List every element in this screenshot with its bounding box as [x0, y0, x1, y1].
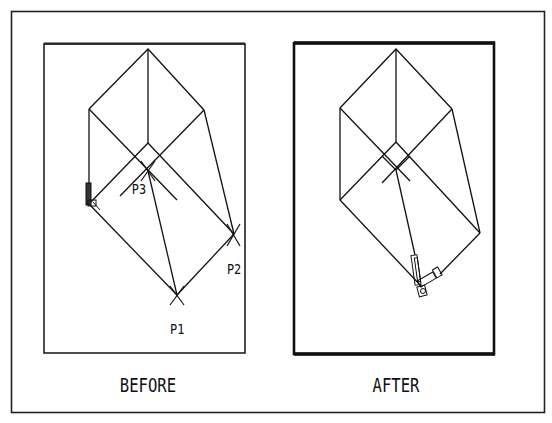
after-caption: AFTER — [314, 374, 478, 396]
p3-label: P3 — [132, 181, 146, 197]
p2-label: P2 — [227, 261, 241, 277]
before-after-diagram: P3 P2 P1 — [0, 0, 552, 423]
before-viewport-frame — [44, 44, 245, 353]
p1-marker — [170, 286, 184, 305]
before-caption: BEFORE — [66, 374, 230, 396]
before-panel: P3 P2 P1 — [44, 44, 245, 354]
robot-icon — [86, 183, 100, 213]
after-wireframe-box — [340, 49, 480, 287]
point-markers — [141, 161, 240, 305]
after-panel — [294, 43, 495, 354]
p3-marker — [141, 161, 155, 181]
robot-icon-moved — [411, 255, 442, 297]
p2-marker — [227, 224, 240, 246]
p1-label: P1 — [170, 321, 184, 337]
before-wireframe-box — [89, 49, 234, 295]
after-viewport-frame — [294, 43, 494, 354]
